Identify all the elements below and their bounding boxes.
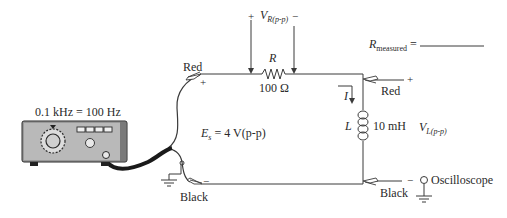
- clip-gen-black: [187, 178, 202, 184]
- gen-red-label: Red: [183, 61, 202, 73]
- generator-ground-wire: [169, 163, 181, 180]
- generator-red-cable: [168, 75, 200, 148]
- inductor-value: 10 mH: [373, 120, 406, 132]
- oscilloscope-terminal: [421, 177, 428, 184]
- amplitude-knob: [86, 139, 95, 148]
- generator-ground-icon: [161, 180, 177, 186]
- scope-ground-icon: [416, 196, 432, 202]
- resistor-symbol: [262, 69, 285, 79]
- inductor-symbol: [358, 111, 368, 140]
- gen-red-polarity: +: [200, 77, 206, 88]
- function-generator: [22, 121, 127, 166]
- generator-black-cable: [168, 148, 190, 182]
- generator-frequency-label: 0.1 kHz = 100 Hz: [35, 106, 121, 118]
- r-measured-label: Rmeasured =: [369, 38, 417, 50]
- inductor-symbol-label: L: [345, 120, 352, 132]
- gen-black-polarity: −: [203, 176, 209, 187]
- vr-minus: −: [292, 11, 298, 22]
- vr-subscript: R(p-p): [267, 15, 288, 24]
- clip-scope-black: [363, 178, 378, 185]
- resistor-value: 100 Ω: [259, 82, 289, 94]
- source-voltage-label: Es = 4 V(p-p): [201, 127, 266, 139]
- vr-plus: +: [248, 11, 254, 22]
- vl-subscript: L(p-p): [426, 127, 446, 136]
- resistor-symbol-label: R: [269, 52, 276, 64]
- scope-red-polarity: +: [407, 74, 413, 85]
- clip-scope-red: [363, 76, 378, 83]
- current-symbol: I: [344, 90, 348, 102]
- scope-black-polarity: −: [407, 175, 413, 186]
- output-jack: [103, 152, 110, 159]
- scope-red-label: Red: [381, 85, 400, 97]
- r-measured-subscript: measured: [376, 44, 407, 53]
- r-measured-equals: =: [410, 37, 417, 51]
- source-value: = 4 V(p-p): [214, 126, 265, 140]
- vr-label: VR(p-p): [260, 9, 288, 21]
- gen-black-label: Black: [180, 191, 208, 203]
- scope-black-label: Black: [380, 187, 408, 199]
- vl-label: VL(p-p): [419, 121, 447, 133]
- oscilloscope-label: Oscilloscope: [431, 174, 493, 186]
